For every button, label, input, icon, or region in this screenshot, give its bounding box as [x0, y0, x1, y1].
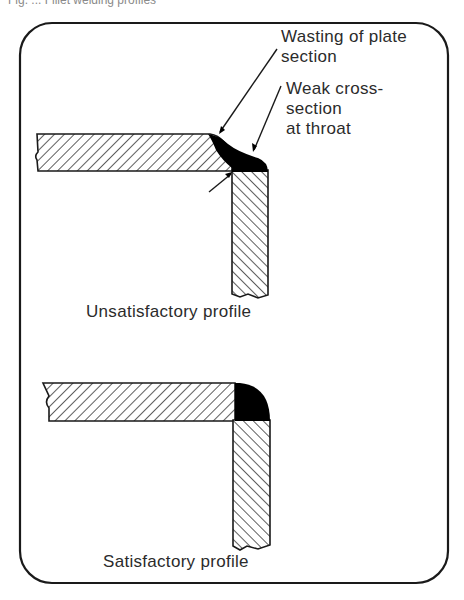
- wasting-line-1: Wasting of plate: [281, 27, 407, 47]
- vertical-plate: [233, 420, 270, 550]
- weak-throat-annotation: Weak cross- section at throat: [286, 79, 383, 139]
- unsatisfactory-joint: [36, 49, 281, 298]
- weld-profile-diagram: [0, 0, 464, 600]
- wasting-annotation: Wasting of plate section: [281, 27, 407, 67]
- wasting-line-2: section: [281, 47, 407, 67]
- throat-leader-outer: [254, 86, 281, 150]
- weak-line-2: section: [286, 99, 383, 119]
- weak-line-3: at throat: [286, 119, 383, 139]
- horizontal-plate: [36, 134, 232, 171]
- satisfactory-joint: [43, 383, 270, 550]
- vertical-plate: [232, 170, 268, 298]
- horizontal-plate: [43, 383, 235, 421]
- satisfactory-label: Satisfactory profile: [103, 552, 249, 572]
- weak-line-1: Weak cross-: [286, 79, 383, 99]
- weld-fillet: [235, 383, 270, 421]
- wasting-leader: [220, 49, 277, 132]
- unsatisfactory-label: Unsatisfactory profile: [86, 302, 251, 322]
